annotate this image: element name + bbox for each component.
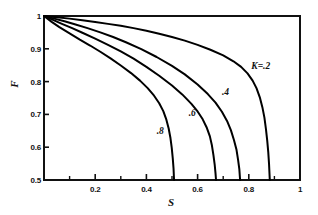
curve-label-8: .8 (157, 126, 164, 136)
curve-K6 (44, 16, 216, 180)
y-tick-label: 1 (37, 12, 41, 21)
curve-label-4: .4 (222, 87, 229, 97)
x-axis-title: S (168, 196, 174, 208)
chart-plot-area (0, 0, 318, 215)
x-tick-label: 0.6 (192, 185, 203, 194)
x-tick-label: 0.4 (141, 185, 152, 194)
y-tick-label: 0.9 (30, 44, 41, 53)
y-tick-label: 0.6 (30, 143, 41, 152)
y-tick-label: 0.5 (30, 176, 41, 185)
x-tick-label: 0.8 (244, 185, 255, 194)
curve-K4 (44, 16, 240, 180)
figure-container: 0.20.40.60.81 0.50.60.70.80.91 K=.2.4.6.… (0, 0, 318, 215)
x-tick-label: 0.2 (90, 185, 101, 194)
y-tick-label: 0.8 (30, 77, 41, 86)
curve-label-K2: K=.2 (251, 61, 270, 71)
data-curves (44, 16, 270, 180)
y-tick-label: 0.7 (30, 110, 41, 119)
curve-K8 (44, 16, 174, 180)
curve-label-6: .6 (189, 108, 196, 118)
x-tick-label: 1 (298, 185, 302, 194)
y-axis-title: F (8, 80, 20, 87)
curve-K2 (44, 16, 270, 180)
